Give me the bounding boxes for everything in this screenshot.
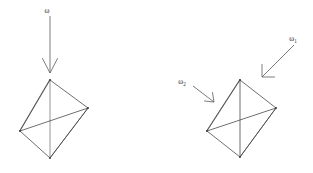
label-omega: ω [45,6,50,15]
octahedron-left-vertex-top [49,79,51,81]
label-omega-1: ω1 [289,34,297,44]
label-omega-2: ω2 [178,77,186,87]
arrow-omega-2-shaft [193,86,214,102]
octahedron-right-horizontal-axis [207,108,276,131]
octahedron-left [19,79,89,159]
right-panel: ω1 ω2 [178,34,297,158]
octahedron-right-vertex-left [206,130,208,132]
octahedron-left-horizontal-axis [20,108,88,131]
arrow-omega-2 [193,86,214,102]
octahedron-right [206,79,277,158]
octahedron-left-vertex-bottom [49,157,51,159]
arrow-omega-1 [262,45,294,77]
octahedron-left-edge-right-bottom [50,108,88,158]
octahedron-right-edge-top-left [207,80,240,131]
octahedron-right-vertex-bottom [239,156,241,158]
octahedron-right-outline [207,80,276,157]
label-omega-2-subscript: 2 [183,81,186,87]
octahedron-right-edge-right-bottom [240,108,276,157]
figure-canvas: ω ω1 ω2 [0,0,313,173]
octahedron-right-vertex-right [275,107,277,109]
octahedron-left-vertex-left [19,130,21,132]
label-omega-1-subscript: 1 [294,38,297,44]
octahedron-right-vertex-top [239,79,241,81]
arrow-omega-1-shaft [262,45,294,77]
left-panel: ω [19,6,89,159]
octahedron-left-outline [20,80,88,158]
arrow-omega [43,16,58,73]
octahedron-left-vertex-right [87,107,89,109]
octahedron-left-edge-top-left [20,80,50,131]
